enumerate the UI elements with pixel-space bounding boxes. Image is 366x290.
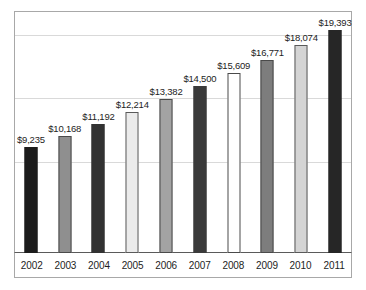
bar-slot: $11,192 — [82, 11, 116, 253]
x-axis-tick-2006: 2006 — [149, 253, 183, 277]
bar-2004[interactable] — [92, 124, 105, 253]
bar-value-label-2002: $9,235 — [17, 134, 45, 145]
bar-value-label-2005: $12,214 — [116, 99, 149, 110]
bar-2007[interactable] — [193, 86, 206, 253]
bar-value-label-2011: $19,393 — [319, 17, 352, 28]
bar-value-label-2010: $18,074 — [285, 32, 318, 43]
bars-group: $9,235$10,168$11,192$12,214$13,382$14,50… — [14, 11, 352, 253]
bar-slot: $19,393 — [318, 11, 352, 253]
x-axis-tick-2003: 2003 — [49, 253, 83, 277]
bar-slot: $10,168 — [48, 11, 82, 253]
bar-2006[interactable] — [160, 99, 173, 253]
bar-2002[interactable] — [24, 147, 37, 253]
bar-slot: $15,609 — [217, 11, 251, 253]
bar-slot: $13,382 — [149, 11, 183, 253]
bar-slot: $16,771 — [251, 11, 285, 253]
x-axis-tick-2010: 2010 — [284, 253, 318, 277]
bar-slot: $18,074 — [284, 11, 318, 253]
bar-2008[interactable] — [227, 73, 240, 253]
bar-value-label-2006: $13,382 — [150, 86, 183, 97]
bar-value-label-2007: $14,500 — [183, 73, 216, 84]
x-axis-tick-2009: 2009 — [250, 253, 284, 277]
bar-chart-screenshot: $9,235$10,168$11,192$12,214$13,382$14,50… — [0, 0, 366, 290]
x-axis-labels: 2002200320042005200620072008200920102011 — [14, 253, 352, 278]
bar-slot: $14,500 — [183, 11, 217, 253]
bar-value-label-2004: $11,192 — [82, 111, 114, 122]
bar-value-label-2008: $15,609 — [217, 60, 250, 71]
x-axis-tick-2011: 2011 — [317, 253, 351, 277]
x-axis-tick-2005: 2005 — [116, 253, 150, 277]
bar-value-label-2009: $16,771 — [251, 47, 284, 58]
bar-2011[interactable] — [329, 30, 342, 253]
bar-2010[interactable] — [295, 45, 308, 253]
x-axis-tick-2007: 2007 — [183, 253, 217, 277]
bar-value-label-2003: $10,168 — [48, 123, 81, 134]
x-axis-tick-2008: 2008 — [217, 253, 251, 277]
bar-slot: $9,235 — [14, 11, 48, 253]
x-axis-tick-2004: 2004 — [82, 253, 116, 277]
bar-2005[interactable] — [126, 112, 139, 253]
bar-2003[interactable] — [58, 136, 71, 253]
bar-slot: $12,214 — [115, 11, 149, 253]
bar-2009[interactable] — [261, 60, 274, 253]
x-axis-tick-2002: 2002 — [15, 253, 49, 277]
